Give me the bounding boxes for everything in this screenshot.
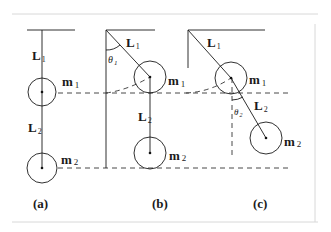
label-m1-b: m1 (168, 73, 185, 89)
label-m2-b: m2 (169, 148, 186, 163)
theta1-arc (106, 45, 120, 50)
pivot-dot (41, 167, 44, 170)
pivot-dot (149, 76, 152, 79)
caption-a: (a) (33, 196, 48, 211)
label-L1-a: L1 (32, 48, 46, 64)
pivot-dot (230, 77, 233, 80)
label-m1-c: m1 (249, 72, 266, 88)
double-pendulum-diagram: L1 m1 L2 m2 (a) L1 θ1 m1 L2 m2 (b) (0, 0, 331, 232)
theta2-arc (232, 97, 243, 100)
swing-arc-c (186, 78, 231, 93)
pivot-dot (265, 137, 268, 140)
caption-c: (c) (253, 196, 267, 211)
panel-a: L1 m1 L2 m2 (a) (27, 30, 79, 211)
label-m1-a: m1 (62, 74, 79, 90)
swing-arc-b (106, 77, 150, 93)
label-L1-b: L1 (126, 35, 140, 51)
pivot-dot (149, 152, 152, 155)
label-theta2: θ2 (234, 107, 242, 118)
label-L2-a: L2 (28, 120, 42, 136)
caption-b: (b) (152, 196, 168, 211)
label-L2-c: L2 (254, 98, 268, 114)
label-L1-c: L1 (207, 35, 221, 51)
pivot-dot (41, 91, 44, 94)
label-theta1: θ1 (108, 54, 117, 67)
label-m2-c: m2 (284, 134, 301, 149)
panel-b: L1 θ1 m1 L2 m2 (b) (106, 30, 186, 211)
label-m2-a: m2 (61, 152, 78, 167)
panel-c: L1 m1 L2 θ2 m2 (c) (186, 30, 301, 211)
